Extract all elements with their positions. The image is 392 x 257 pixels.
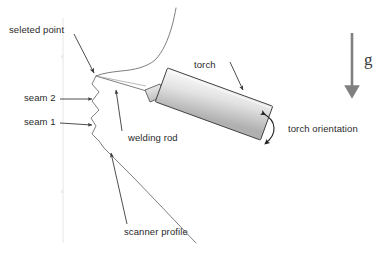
label-seam-1: seam 1 bbox=[24, 117, 56, 127]
label-seam-2: seam 2 bbox=[24, 93, 56, 103]
label-selected-point: seleted point bbox=[9, 25, 64, 35]
leader-welding-rod bbox=[116, 90, 122, 131]
label-gravity: g bbox=[364, 50, 373, 70]
axis-tick-lower: 0 bbox=[61, 190, 63, 194]
leader-selected-point bbox=[74, 34, 94, 73]
leader-scanner-profile bbox=[111, 153, 127, 224]
leader-torch bbox=[230, 62, 243, 90]
scanner-profile-path bbox=[91, 8, 196, 243]
diagram-canvas: seleted point seam 2 seam 1 welding rod … bbox=[0, 0, 392, 257]
label-welding-rod: welding rod bbox=[128, 133, 178, 143]
leader-seam1 bbox=[60, 123, 92, 125]
label-scanner-profile: scanner profile bbox=[124, 227, 188, 237]
label-torch-orientation: torch orientation bbox=[288, 124, 358, 134]
torch-body bbox=[155, 68, 273, 140]
label-torch: torch bbox=[194, 60, 216, 70]
axis-tick-upper: 0 bbox=[61, 55, 63, 59]
